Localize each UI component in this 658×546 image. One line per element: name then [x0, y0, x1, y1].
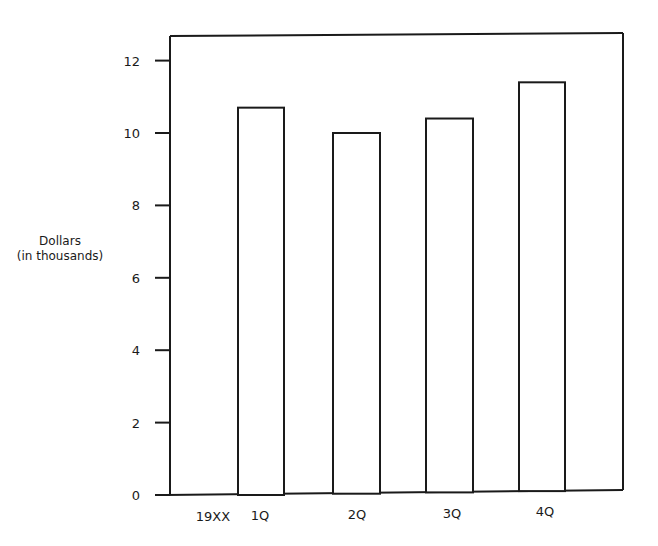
x-tick-label-2q: 2Q — [348, 507, 367, 522]
y-tick-label: 8 — [132, 198, 140, 213]
y-tick-label: 0 — [132, 488, 140, 503]
y-tick-label: 2 — [132, 416, 140, 431]
bar-chart: 02468101219XX1Q2Q3Q4Q — [0, 0, 658, 546]
bar-2q — [333, 133, 380, 494]
x-tick-label-4q: 4Q — [536, 504, 555, 519]
plot-frame-top — [170, 33, 623, 36]
bar-4q — [519, 82, 565, 491]
bar-1q — [238, 108, 284, 495]
x-tick-label-1q: 1Q — [251, 508, 270, 523]
bar-3q — [426, 119, 473, 493]
y-tick-label: 10 — [123, 126, 140, 141]
year-label: 19XX — [196, 509, 230, 524]
y-tick-label: 12 — [123, 54, 140, 69]
y-tick-label: 4 — [132, 343, 140, 358]
y-tick-label: 6 — [132, 271, 140, 286]
x-tick-label-3q: 3Q — [443, 506, 462, 521]
